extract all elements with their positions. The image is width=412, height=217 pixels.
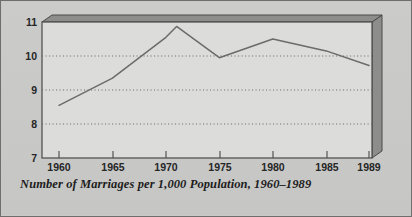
plot-right-face — [372, 15, 382, 158]
figure-caption: Number of Marriages per 1,000 Population… — [20, 177, 400, 192]
x-tick-label-1965: 1965 — [101, 161, 125, 173]
x-axis-labels: 1960 1965 1970 1975 1980 1985 1989 — [47, 161, 381, 173]
y-tick-label-10: 10 — [25, 50, 37, 62]
y-tick-label-8: 8 — [31, 118, 37, 130]
plot-top-face — [42, 15, 382, 22]
line-chart: 11 10 9 8 7 1960 1965 1970 19 — [1, 1, 412, 176]
y-tick-label-9: 9 — [31, 84, 37, 96]
x-tick-label-1985: 1985 — [315, 161, 339, 173]
y-tick-label-7: 7 — [31, 152, 37, 164]
y-axis-labels: 11 10 9 8 7 — [25, 16, 37, 164]
x-tick-label-1960: 1960 — [47, 161, 71, 173]
y-tick-label-11: 11 — [26, 16, 37, 28]
x-tick-label-1975: 1975 — [208, 161, 232, 173]
chart-area: 11 10 9 8 7 1960 1965 1970 19 — [1, 1, 412, 176]
x-tick-label-1989: 1989 — [357, 161, 381, 173]
figure-panel: 11 10 9 8 7 1960 1965 1970 19 — [0, 0, 412, 217]
x-tick-label-1980: 1980 — [261, 161, 285, 173]
x-tick-label-1970: 1970 — [154, 161, 178, 173]
